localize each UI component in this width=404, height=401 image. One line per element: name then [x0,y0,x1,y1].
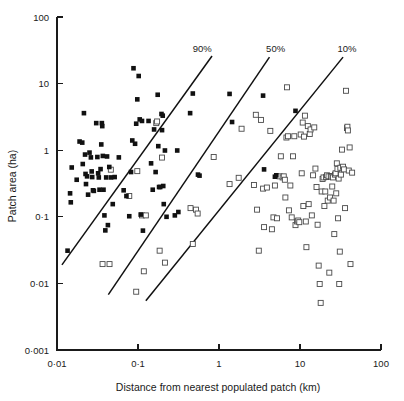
data-point [134,289,139,294]
data-point [316,263,321,268]
data-point [155,92,160,97]
y-tick-label: 10 [38,78,49,89]
data-point [89,169,94,174]
data-point [272,183,277,188]
data-point [156,144,161,149]
data-point [327,270,332,275]
data-point [312,125,317,130]
data-point [195,211,200,216]
data-point [188,111,193,116]
data-point [191,91,196,96]
data-point [313,166,318,171]
data-point [303,219,308,224]
data-point [323,189,328,194]
data-point [264,185,269,190]
line-label: 50% [266,43,286,54]
data-point [315,222,320,227]
data-point [80,162,85,167]
data-point [286,208,291,213]
data-point [197,173,202,178]
data-point [96,175,101,180]
data-point [188,206,193,211]
data-point [100,124,105,129]
x-tick-label: 1 [216,358,221,369]
data-point [74,177,79,182]
scatter-plot-figure: 0·010·1110100 0·0010·010·1110100 90%50%1… [0,0,404,401]
data-point [160,113,165,118]
x-tick-label: 0·1 [131,358,145,369]
data-point [83,152,88,157]
data-point [301,134,306,139]
data-point [136,74,141,79]
data-point [87,150,92,155]
data-point [104,175,109,180]
data-point [105,154,110,159]
data-point [100,262,105,267]
reference-line-90pct [62,56,212,265]
data-point [162,260,167,265]
data-point [102,213,107,218]
data-point [284,85,289,90]
data-point [110,202,115,207]
data-point [84,182,89,187]
y-tick-label: 100 [33,12,49,23]
x-tick-label: 10 [295,358,306,369]
data-point [68,200,73,205]
data-point [292,134,297,139]
data-point [278,154,283,159]
data-point [68,191,73,196]
data-point [291,154,296,159]
data-point [103,228,108,233]
data-point [282,177,287,182]
data-point [112,175,117,180]
data-point [227,92,232,97]
data-point [82,111,87,116]
data-point [306,202,311,207]
data-point [338,172,343,177]
data-point [256,248,261,253]
data-point [135,97,140,102]
data-point [157,248,162,253]
data-point [69,165,74,170]
data-point [131,66,136,71]
data-point [275,216,280,221]
data-point [107,165,112,170]
data-point [331,198,336,203]
data-point [135,169,140,174]
data-point [127,214,132,219]
data-point [259,117,264,122]
data-point [344,88,349,93]
x-tick-label: 100 [373,358,389,369]
x-tick-label: 0·01 [47,358,66,369]
data-point [65,248,70,253]
data-point [95,155,100,160]
data-point [311,173,316,178]
data-point [176,210,181,215]
data-point [337,281,342,286]
y-tick-label: 0·1 [35,211,49,222]
data-point [86,192,91,197]
data-point [94,121,99,126]
data-point [317,281,322,286]
data-point [101,154,106,159]
line-label: 10% [337,43,357,54]
data-point [164,215,169,220]
data-point [141,228,146,233]
data-point [146,119,151,124]
y-tick-label: 0·01 [30,278,49,289]
data-point [340,147,345,152]
data-point [96,171,101,176]
data-point [90,175,95,180]
data-point [269,227,274,232]
data-point [330,184,335,189]
data-point [314,185,319,190]
data-point [160,155,165,160]
data-point [318,300,323,305]
data-point [332,232,337,237]
data-point [337,249,342,254]
data-point [161,184,166,189]
y-tick-label: 0·001 [25,345,49,356]
data-point [288,183,293,188]
data-point [161,202,166,207]
data-point [175,148,180,153]
